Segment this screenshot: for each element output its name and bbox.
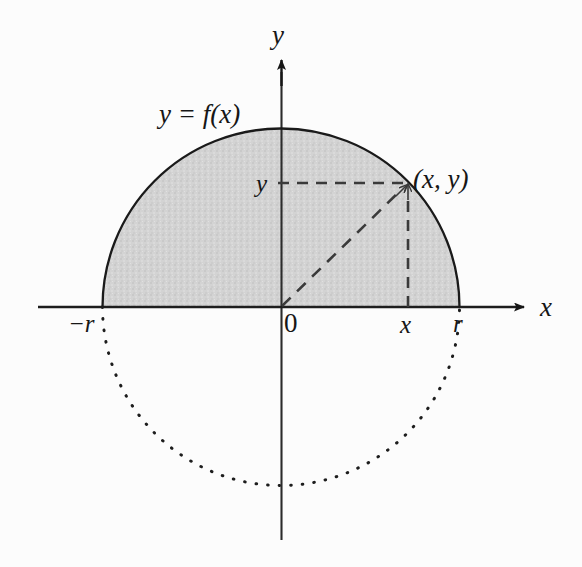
semicircle-diagram	[0, 0, 582, 567]
curve-equation-label: y = f(x)	[159, 101, 240, 128]
y-tick-label: y	[256, 171, 267, 196]
y-axis-label: y	[272, 22, 284, 49]
x-tick-label: x	[400, 312, 411, 337]
r-tick-label: r	[453, 311, 463, 336]
negative-r-tick-label: −r	[68, 311, 95, 336]
point-coordinates-label: (x, y)	[413, 166, 468, 193]
x-axis-label: x	[540, 294, 552, 321]
figure-container: y x y = f(x) (x, y) y x −r r 0	[0, 0, 582, 567]
origin-label: 0	[284, 310, 298, 337]
